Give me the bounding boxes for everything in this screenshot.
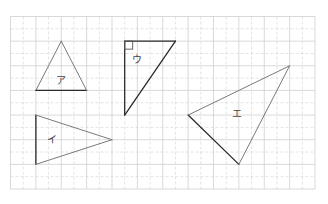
triangle-label: ア <box>56 75 66 86</box>
triangle-label: ウ <box>132 54 142 65</box>
triangle-label: イ <box>47 134 57 145</box>
grid <box>11 17 316 190</box>
right-angle-mark <box>125 41 133 49</box>
grid-diagram: アウイエ <box>0 0 328 204</box>
triangle-label: エ <box>232 108 242 119</box>
